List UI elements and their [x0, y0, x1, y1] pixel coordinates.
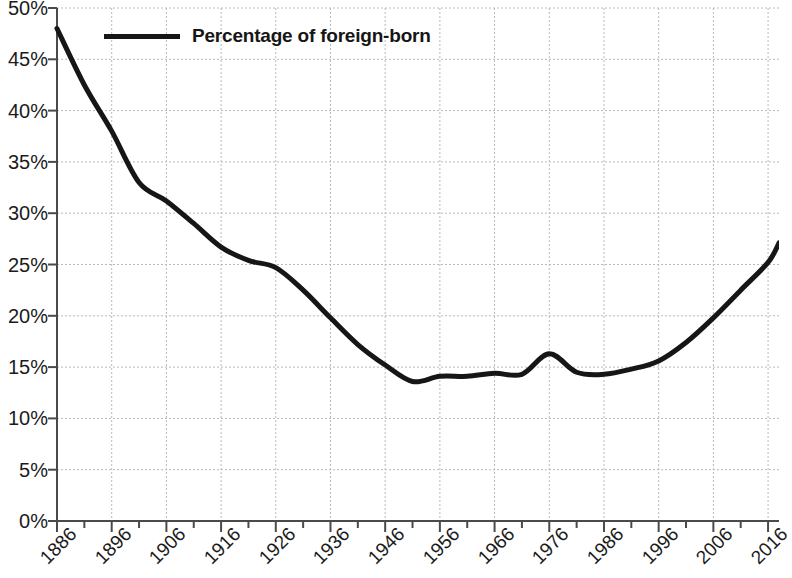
x-axis-tick-label-text: 1976 — [529, 524, 572, 567]
x-axis-tick-label-text: 1916 — [200, 524, 243, 567]
x-axis-tick-label-text: 1926 — [255, 524, 298, 567]
x-axis-tick-label-text: 1956 — [419, 524, 462, 567]
legend-line-swatch-icon — [104, 34, 180, 39]
legend-label: Percentage of foreign-born — [192, 26, 431, 46]
chart-legend: Percentage of foreign-born — [104, 26, 431, 46]
x-axis-tick-label-text: 1946 — [365, 524, 408, 567]
x-axis-tick-label-text: 1996 — [638, 524, 681, 567]
x-axis-tick-label-text: 1886 — [36, 524, 79, 567]
x-axis-tick-label-text: 2016 — [747, 524, 790, 567]
x-axis-tick-label-text: 1896 — [91, 524, 134, 567]
x-axis-tick-label-text: 1936 — [310, 524, 353, 567]
x-axis-tick-label-text: 2006 — [693, 524, 736, 567]
x-axis-tick-label-text: 1986 — [583, 524, 626, 567]
x-axis-tick-label-text: 1966 — [474, 524, 517, 567]
x-axis-tick-label-text: 1906 — [146, 524, 189, 567]
